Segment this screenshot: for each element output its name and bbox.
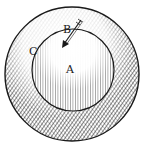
label-a: A [66,64,74,75]
label-c: C [29,46,37,57]
label-b: B [63,24,71,35]
